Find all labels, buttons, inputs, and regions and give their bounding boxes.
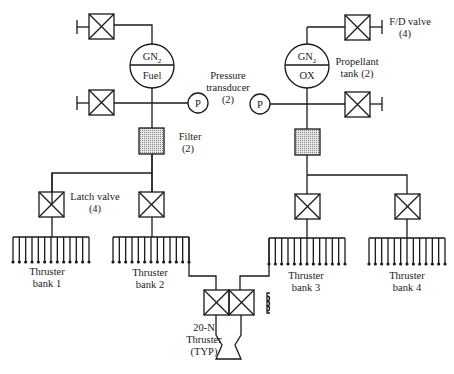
latch-valve-2 xyxy=(139,154,164,237)
thruster-20n-label: 20-N xyxy=(193,322,215,333)
filter-fuel xyxy=(139,128,164,154)
latch-valve-1 xyxy=(39,173,64,237)
thruster-20n-valve xyxy=(204,290,254,315)
bank-4-sublabel: bank 4 xyxy=(393,282,422,293)
svg-text:GN2: GN2 xyxy=(143,51,162,65)
svg-text:GN2: GN2 xyxy=(298,51,317,65)
pressure-transducer-count: (2) xyxy=(222,94,235,106)
filter-label: Filter xyxy=(179,131,202,142)
svg-text:Fuel: Fuel xyxy=(143,70,162,81)
fd-valve-ox-top xyxy=(345,15,382,40)
bank-4-label: Thruster xyxy=(389,270,425,281)
fd-valve-ox-mid xyxy=(345,92,382,117)
thruster-bank-1 xyxy=(11,237,90,264)
bank-3-label: Thruster xyxy=(288,270,324,281)
propellant-tank-count: tank (2) xyxy=(341,68,374,80)
svg-text:OX: OX xyxy=(299,70,315,81)
pressure-transducer-label: Pressure xyxy=(210,70,246,81)
thruster-bank-4 xyxy=(367,238,446,266)
latch-valve-label: Latch valve xyxy=(70,191,120,202)
thruster-20n-label-2: Thruster xyxy=(186,334,222,345)
thruster-bank-3 xyxy=(267,238,346,266)
propulsion-schematic: GN2 Fuel P Filter (2) Latch valve (4) xyxy=(0,0,454,374)
fd-valve-label: F/D valve xyxy=(389,16,431,27)
thruster-bank-2 xyxy=(111,237,190,264)
latch-valve-3 xyxy=(295,194,320,238)
pressure-transducer-fuel: P xyxy=(188,93,208,113)
ox-tank: GN2 OX xyxy=(285,44,329,88)
pressure-transducer-label-2: transducer xyxy=(206,82,250,93)
bank-1-sublabel: bank 1 xyxy=(33,278,61,289)
heater-coil-icon xyxy=(267,293,270,313)
propellant-tank-label: Propellant xyxy=(335,56,378,67)
fd-valve-fuel-mid xyxy=(77,90,114,115)
filter-ox xyxy=(295,129,320,155)
fuel-tank: GN2 Fuel xyxy=(130,44,174,88)
svg-text:P: P xyxy=(257,99,263,110)
pressure-transducer-ox: P xyxy=(250,94,270,114)
fd-valve-count: (4) xyxy=(399,28,412,40)
bank-1-label: Thruster xyxy=(29,266,65,277)
bank-2-label: Thruster xyxy=(132,267,168,278)
latch-valve-4 xyxy=(395,194,420,238)
thruster-20n-label-3: (TYP) xyxy=(191,346,218,358)
filter-count: (2) xyxy=(182,143,195,155)
fd-valve-fuel-top xyxy=(77,14,114,39)
svg-text:P: P xyxy=(195,98,201,109)
latch-valve-count: (4) xyxy=(89,203,102,215)
bank-3-sublabel: bank 3 xyxy=(292,282,320,293)
bank-2-sublabel: bank 2 xyxy=(136,279,164,290)
